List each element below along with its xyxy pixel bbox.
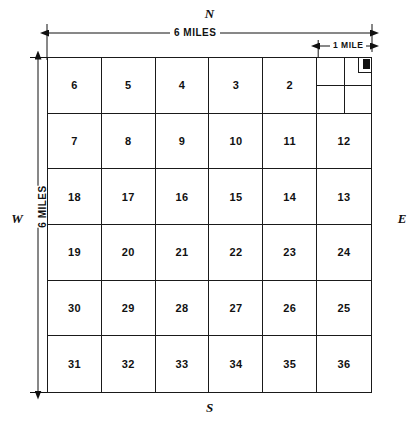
section-cell: 2	[263, 58, 317, 114]
section-number: 28	[176, 302, 189, 314]
section-number: 15	[229, 191, 242, 203]
section-cell: 17	[102, 169, 156, 225]
section-number: 12	[338, 135, 351, 147]
section-number: 3	[233, 79, 240, 91]
section-cell	[317, 58, 371, 114]
section-cell: 3	[209, 58, 263, 114]
section-cell: 28	[156, 281, 210, 337]
section-cell: 29	[102, 281, 156, 337]
section-cell: 7	[48, 114, 102, 170]
section-cell: 16	[156, 169, 210, 225]
section-number: 30	[68, 302, 81, 314]
section-number: 2	[286, 79, 293, 91]
section-number: 19	[68, 246, 81, 258]
compass-label-east: E	[393, 211, 411, 227]
township-diagram: N S W E 6 MILES 1 MILE 6 MILES 654327891…	[0, 0, 419, 427]
compass-label-south: S	[0, 400, 419, 416]
section-cell: 30	[48, 281, 102, 337]
section-cell: 10	[209, 114, 263, 170]
section-cell: 35	[263, 336, 317, 392]
section-number: 20	[122, 246, 135, 258]
section-cell: 11	[263, 114, 317, 170]
section-number: 23	[283, 246, 296, 258]
section-number: 13	[338, 191, 351, 203]
quarter-quarter-divider-horizontal	[358, 72, 371, 73]
section-number: 14	[283, 191, 296, 203]
section-number: 17	[122, 191, 135, 203]
section-number: 34	[229, 358, 242, 370]
section-number: 6	[71, 79, 78, 91]
section-cell: 36	[317, 336, 371, 392]
section-cell: 23	[263, 225, 317, 281]
section-cell: 14	[263, 169, 317, 225]
quarter-section-lines	[317, 58, 371, 113]
section-number: 36	[338, 358, 351, 370]
section-number: 10	[229, 135, 242, 147]
section-number: 9	[179, 135, 186, 147]
section-number: 4	[179, 79, 186, 91]
section-cell: 31	[48, 336, 102, 392]
section-number: 35	[283, 358, 296, 370]
section-cell: 8	[102, 114, 156, 170]
compass-label-north: N	[0, 6, 419, 22]
section-number: 33	[176, 358, 189, 370]
section-number: 25	[338, 302, 351, 314]
section-number: 16	[176, 191, 189, 203]
section-number: 18	[68, 191, 81, 203]
section-cell: 22	[209, 225, 263, 281]
section-cell: 20	[102, 225, 156, 281]
section-number: 5	[125, 79, 132, 91]
section-cell: 4	[156, 58, 210, 114]
section-cell: 32	[102, 336, 156, 392]
section-cell: 13	[317, 169, 371, 225]
section-cell: 27	[209, 281, 263, 337]
section-number: 32	[122, 358, 135, 370]
section-number: 7	[71, 135, 78, 147]
section-cell: 26	[263, 281, 317, 337]
section-cell: 21	[156, 225, 210, 281]
compass-label-west: W	[8, 211, 26, 227]
township-grid-wrapper: 6543278910111218171615141319202122232430…	[47, 57, 372, 393]
section-number: 8	[125, 135, 132, 147]
quarter-quarter-section	[344, 58, 371, 85]
section-cell: 15	[209, 169, 263, 225]
dimension-label-1-mile: 1 MILE	[330, 40, 366, 50]
section-cell: 6	[48, 58, 102, 114]
section-number: 21	[176, 246, 189, 258]
section-cell: 34	[209, 336, 263, 392]
section-cell: 12	[317, 114, 371, 170]
corner-parcel-marker	[363, 59, 370, 69]
section-number: 27	[229, 302, 242, 314]
dimension-label-top-6-miles: 6 MILES	[170, 27, 220, 38]
section-cell: 19	[48, 225, 102, 281]
section-cell: 24	[317, 225, 371, 281]
township-grid: 6543278910111218171615141319202122232430…	[47, 57, 372, 393]
section-number: 24	[338, 246, 351, 258]
section-cell: 25	[317, 281, 371, 337]
section-number: 29	[122, 302, 135, 314]
section-cell: 18	[48, 169, 102, 225]
section-number: 26	[283, 302, 296, 314]
section-number: 31	[68, 358, 81, 370]
quarter-divider-horizontal	[317, 85, 371, 86]
section-number: 11	[284, 135, 296, 147]
section-number: 22	[229, 246, 242, 258]
section-cell: 5	[102, 58, 156, 114]
section-cell: 33	[156, 336, 210, 392]
quarter-quarter-divider-vertical	[358, 58, 359, 72]
section-cell: 9	[156, 114, 210, 170]
